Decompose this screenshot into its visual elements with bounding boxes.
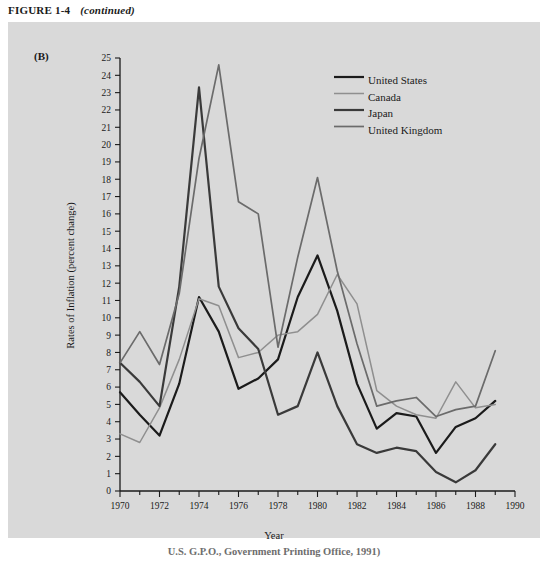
- x-tick-label: 1974: [190, 501, 209, 511]
- y-tick-label: 12: [102, 279, 112, 289]
- y-tick-label: 7: [106, 365, 111, 375]
- legend-label-canada: Canada: [368, 91, 401, 103]
- x-tick-label: 1982: [348, 501, 367, 511]
- figure-number: FIGURE 1-4: [8, 4, 70, 16]
- y-tick-label: 13: [102, 261, 112, 271]
- series-line-united-states: [120, 255, 495, 452]
- figure-continued-note: (continued): [80, 4, 135, 16]
- legend-label-united-kingdom: United Kingdom: [368, 124, 442, 136]
- legend-label-united-states: United States: [368, 74, 427, 86]
- y-tick-label: 24: [102, 71, 112, 81]
- y-tick-label: 2: [106, 452, 111, 462]
- x-tick-label: 1970: [111, 501, 130, 511]
- y-tick-label: 22: [102, 105, 112, 115]
- inflation-line-chart: 0123456789101112131415161718192021222324…: [8, 22, 540, 538]
- y-tick-label: 15: [102, 227, 112, 237]
- x-tick-label: 1984: [387, 501, 406, 511]
- y-tick-label: 23: [102, 88, 112, 98]
- y-tick-label: 1: [106, 469, 111, 479]
- legend-entry-canada: Canada: [368, 89, 442, 106]
- y-tick-label: 6: [106, 382, 111, 392]
- y-tick-label: 4: [106, 417, 111, 427]
- y-tick-label: 0: [106, 486, 111, 496]
- chart-legend: United States Canada Japan United Kingdo…: [368, 72, 442, 138]
- y-tick-label: 25: [102, 53, 112, 63]
- y-tick-label: 10: [102, 313, 112, 323]
- y-tick-label: 21: [102, 123, 112, 133]
- y-tick-label: 18: [102, 175, 112, 185]
- x-tick-label: 1972: [150, 501, 169, 511]
- y-tick-label: 11: [102, 296, 111, 306]
- legend-entry-japan: Japan: [368, 105, 442, 122]
- x-tick-label: 1980: [308, 501, 327, 511]
- x-tick-label: 1988: [466, 501, 485, 511]
- y-tick-label: 14: [102, 244, 112, 254]
- chart-plate: (B) Rates of Inflation (percent change) …: [8, 22, 540, 538]
- legend-label-japan: Japan: [368, 107, 393, 119]
- figure-caption: U.S. G.P.O., Government Printing Office,…: [0, 546, 548, 558]
- figure-header: FIGURE 1-4(continued): [8, 4, 135, 16]
- x-tick-label: 1990: [506, 501, 525, 511]
- legend-entry-united-states: United States: [368, 72, 442, 89]
- y-tick-label: 20: [102, 140, 112, 150]
- y-tick-label: 17: [102, 192, 112, 202]
- x-tick-label: 1976: [229, 501, 248, 511]
- y-tick-label: 3: [106, 434, 111, 444]
- y-tick-label: 19: [102, 157, 112, 167]
- y-tick-label: 5: [106, 400, 111, 410]
- x-tick-label: 1978: [269, 501, 288, 511]
- series-line-japan: [120, 87, 495, 482]
- y-tick-label: 16: [102, 209, 112, 219]
- x-tick-label: 1986: [427, 501, 446, 511]
- y-tick-label: 9: [106, 331, 111, 341]
- y-tick-label: 8: [106, 348, 111, 358]
- legend-entry-united-kingdom: United Kingdom: [368, 122, 442, 139]
